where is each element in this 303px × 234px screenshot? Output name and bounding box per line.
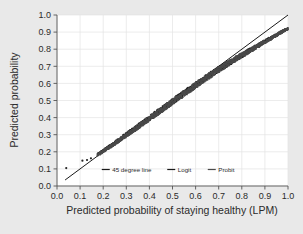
x-tick-label: 0.1 [74, 191, 87, 201]
y-tick-label: 0.9 [38, 27, 51, 37]
data-point [181, 95, 183, 97]
data-point-outlier [65, 167, 67, 169]
data-point [255, 48, 257, 50]
y-tick-label: 0.6 [38, 79, 51, 89]
x-tick-label: 1.0 [282, 191, 295, 201]
y-tick-label: 0.5 [38, 96, 51, 106]
data-point [175, 99, 177, 101]
x-tick-label: 0.6 [189, 191, 202, 201]
x-tick-label: 0.3 [120, 191, 133, 201]
x-tick-label: 0.7 [212, 191, 225, 201]
scatter-plot: 0.00.10.20.30.40.50.60.70.80.91.0 0.00.1… [0, 0, 303, 234]
data-point [240, 57, 242, 59]
y-tick-label: 0.3 [38, 130, 51, 140]
data-point-outlier [90, 157, 92, 159]
data-point-outlier [81, 160, 83, 162]
data-point [287, 29, 289, 31]
data-point [137, 128, 139, 130]
data-point [220, 70, 222, 72]
legend-label-probit: Probit [218, 166, 234, 173]
x-tick-label: 0.0 [51, 191, 64, 201]
x-tick-label: 0.4 [143, 191, 156, 201]
data-point [205, 80, 207, 82]
x-tick-label: 0.9 [259, 191, 272, 201]
x-tick-label: 0.5 [166, 191, 179, 201]
chart-figure: 0.00.10.20.30.40.50.60.70.80.91.0 0.00.1… [0, 0, 303, 234]
y-tick-label: 0.0 [38, 181, 51, 191]
data-point [179, 98, 181, 100]
y-axis-title: Predicted probability [8, 52, 20, 148]
data-point [234, 61, 236, 63]
y-tick-label: 1.0 [38, 10, 51, 20]
y-tick-label: 0.7 [38, 62, 51, 72]
x-axis-title: Predicted probability of staying healthy… [66, 204, 277, 216]
data-point [229, 64, 231, 66]
y-tick-label: 0.4 [38, 113, 51, 123]
legend-label-45-degree-line: 45 degree line [112, 166, 152, 173]
y-tick-label: 0.1 [38, 164, 51, 174]
data-point [194, 87, 196, 89]
y-tick-label: 0.8 [38, 44, 51, 54]
data-point [125, 137, 127, 139]
data-point [145, 118, 147, 120]
y-tick-label: 0.2 [38, 147, 51, 157]
x-tick-label: 0.2 [97, 191, 110, 201]
data-point [287, 27, 289, 29]
data-point [226, 66, 228, 68]
legend-label-logit: Logit [178, 166, 192, 173]
x-tick-label: 0.8 [236, 191, 249, 201]
data-point [174, 102, 176, 104]
data-point [181, 97, 183, 99]
data-point-outlier [86, 159, 88, 161]
